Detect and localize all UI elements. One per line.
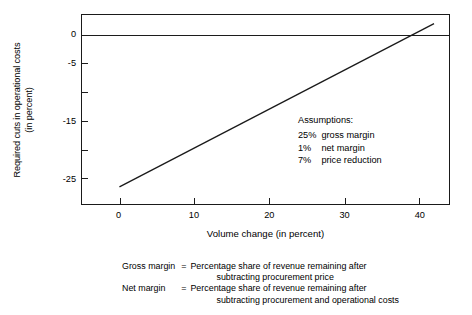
assumption-row: 7%price reduction — [298, 154, 382, 166]
x-axis-tick-labels: 010203040 — [81, 210, 450, 224]
assumption-percent: 25% — [298, 129, 321, 141]
assumption-row: 25%gross margin — [298, 129, 382, 141]
plot-area — [81, 14, 450, 205]
y-axis-ticks — [82, 35, 88, 178]
assumption-row: 1%net margin — [298, 142, 382, 154]
assumption-label: price reduction — [321, 154, 381, 166]
plot-canvas — [82, 15, 449, 204]
x-tick-label: 0 — [116, 210, 121, 220]
footnote-term: Net margin — [122, 283, 181, 305]
footnote-equals: = — [181, 261, 190, 283]
assumption-percent: 1% — [298, 142, 321, 154]
chart-figure: Required cuts in operational costs (in p… — [0, 0, 472, 315]
x-tick-label: 40 — [415, 210, 425, 220]
y-axis-title: Required cuts in operational costs (in p… — [10, 14, 36, 206]
y-tick-label: -25 — [63, 174, 76, 184]
x-axis-title: Volume change (in percent) — [81, 228, 450, 239]
x-axis-ticks — [120, 198, 419, 204]
footnote-definition: Percentage share of revenue remaining af… — [190, 261, 399, 283]
assumption-label: gross margin — [321, 129, 381, 141]
footnote-row: Gross margin=Percentage share of revenue… — [122, 261, 399, 283]
y-axis-tick-labels: 0-5-15-25 — [44, 14, 76, 205]
assumptions-table: 25%gross margin1%net margin7%price reduc… — [298, 129, 382, 166]
footnote-definition-line2: subtracting procurement price — [190, 272, 399, 283]
footnote-term: Gross margin — [122, 261, 181, 283]
footnotes-table: Gross margin=Percentage share of revenue… — [122, 261, 399, 306]
footnote-definition-line2: subtracting procurement and operational … — [190, 295, 399, 306]
assumption-percent: 7% — [298, 154, 321, 166]
assumptions-annotation: Assumptions: 25%gross margin1%net margin… — [298, 114, 382, 167]
x-tick-label: 20 — [264, 210, 274, 220]
footnote-equals: = — [181, 283, 190, 305]
y-axis-title-line2: (in percent) — [23, 42, 35, 177]
assumption-label: net margin — [321, 142, 381, 154]
x-tick-label: 10 — [189, 210, 199, 220]
footnotes-block: Gross margin=Percentage share of revenue… — [122, 261, 399, 306]
footnote-definition-line1: Percentage share of revenue remaining af… — [190, 261, 366, 271]
y-axis-title-line1: Required cuts in operational costs — [12, 42, 22, 177]
y-tick-label: -15 — [63, 116, 76, 126]
assumptions-title: Assumptions: — [298, 114, 382, 126]
footnote-definition: Percentage share of revenue remaining af… — [190, 283, 399, 305]
footnote-row: Net margin=Percentage share of revenue r… — [122, 283, 399, 305]
data-series-line — [119, 24, 434, 187]
y-tick-label: 0 — [71, 29, 76, 39]
footnote-definition-line1: Percentage share of revenue remaining af… — [190, 283, 366, 293]
x-tick-label: 30 — [339, 210, 349, 220]
y-tick-label: -5 — [68, 58, 76, 68]
